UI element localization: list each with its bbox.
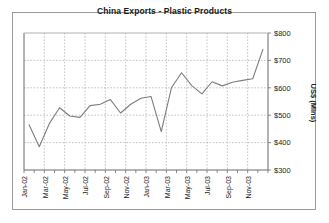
x-tick-label: Jan-02: [21, 176, 28, 198]
x-tick-label: Sep-03: [225, 176, 233, 199]
x-tick-label: Sep-02: [103, 176, 111, 199]
x-gridlines: [44, 33, 247, 170]
x-tick-labels: Jan-02Mar-02May-02Jul-02Sep-02Nov-02Jan-…: [21, 176, 252, 199]
x-tick-label: Mar-02: [42, 176, 49, 198]
y-tick-label: $400: [274, 138, 291, 147]
y-tick-label: $500: [274, 111, 291, 120]
y-tick-label: $600: [274, 84, 291, 93]
x-tick-label: Jul-02: [82, 176, 89, 195]
x-tick-label: May-02: [62, 176, 70, 199]
y-tick-label: $800: [274, 29, 291, 38]
y-axis-title: US$ (Mlns): [309, 84, 318, 123]
y-tick-labels: $300$400$500$600$700$800: [274, 29, 291, 175]
y-tick-label: $300: [274, 166, 291, 175]
x-tick-label: Nov-03: [245, 176, 252, 199]
y-tick-label: $700: [274, 56, 291, 65]
line-chart: $300$400$500$600$700$800 Jan-02Mar-02May…: [0, 0, 329, 223]
x-tick-label: Jan-03: [143, 176, 150, 198]
chart-page: China Exports - Plastic Products $300$40…: [0, 0, 329, 223]
x-tick-label: Nov-02: [123, 176, 130, 199]
x-tick-label: May-03: [184, 176, 192, 199]
x-tick-label: Mar-03: [164, 176, 171, 198]
x-tick-label: Jul-03: [204, 176, 211, 195]
